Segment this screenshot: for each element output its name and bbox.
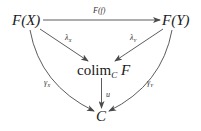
node-colimit: colimC F — [77, 63, 130, 80]
arrow-lambda-Y — [115, 29, 163, 61]
label-gamma-Y: γY — [147, 79, 153, 88]
colim-object: F — [121, 62, 130, 78]
label-F-of-f: F(f) — [93, 7, 105, 15]
label-u: u — [106, 91, 110, 99]
commutative-diagram: F(X) F(Y) colimC F C F(f) λX λY γX γY u — [0, 0, 201, 131]
label-gamma-X: γX — [44, 79, 50, 88]
colim-operator: colim — [77, 62, 111, 78]
label-lambda-X: λX — [65, 34, 72, 43]
colim-subscript: C — [111, 70, 117, 80]
label-lambda-Y: λY — [130, 34, 136, 43]
node-F-of-X: F(X) — [12, 13, 40, 28]
arrow-lambda-X — [40, 29, 88, 61]
node-C: C — [96, 109, 106, 124]
node-F-of-Y: F(Y) — [162, 13, 190, 28]
